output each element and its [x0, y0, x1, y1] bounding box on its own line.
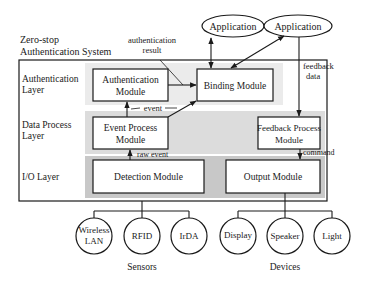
event-leader-left — [131, 108, 140, 109]
system-title-line1: Zero-stop — [20, 34, 59, 45]
application-ellipse-1: Application — [202, 15, 264, 37]
svg-text:Binding Module: Binding Module — [204, 81, 267, 91]
sensor-rfid: RFID — [124, 218, 160, 254]
device-light: Light — [314, 218, 350, 254]
devices-group-label: Devices — [270, 262, 301, 272]
layer-label-data-2: Layer — [22, 131, 45, 141]
sensor-wireless-lan: Wireless LAN — [76, 218, 112, 254]
label-feedback-2: data — [306, 71, 320, 81]
detection-module: Detection Module — [93, 160, 204, 193]
svg-text:Speaker: Speaker — [271, 231, 300, 241]
event-process-module: Event Process Module — [93, 117, 168, 149]
label-auth-result-2: result — [143, 45, 163, 55]
svg-text:Wireless: Wireless — [78, 225, 110, 235]
label-auth-result-1: authentication — [128, 35, 177, 45]
svg-text:Light: Light — [322, 231, 342, 241]
authentication-module: Authentication Module — [93, 69, 168, 101]
layer-label-auth-2: Layer — [22, 85, 45, 95]
label-event: event — [144, 103, 163, 113]
svg-text:Application: Application — [274, 21, 321, 32]
svg-text:Application: Application — [209, 21, 256, 32]
svg-text:Detection Module: Detection Module — [114, 172, 183, 182]
svg-text:IrDA: IrDA — [180, 231, 199, 241]
layer-label-auth-1: Authentication — [22, 74, 79, 84]
svg-text:RFID: RFID — [132, 231, 153, 241]
output-module: Output Module — [226, 160, 320, 193]
svg-text:Display: Display — [224, 230, 252, 240]
layer-label-data-1: Data Process — [22, 120, 72, 130]
svg-text:Feedback Process: Feedback Process — [257, 123, 322, 133]
sensors-group-label: Sensors — [127, 262, 157, 272]
sensor-irda: IrDA — [171, 218, 207, 254]
label-raw-event: raw event — [137, 150, 169, 159]
svg-text:Module: Module — [275, 135, 303, 145]
device-speaker: Speaker — [267, 218, 303, 254]
binding-module: Binding Module — [197, 69, 273, 101]
application-ellipse-2: Application — [264, 15, 332, 37]
feedback-process-module: Feedback Process Module — [257, 117, 322, 149]
layer-label-io: I/O Layer — [22, 172, 60, 182]
label-feedback-1: feedback — [303, 61, 334, 71]
svg-text:Module: Module — [116, 135, 146, 145]
svg-text:Output Module: Output Module — [244, 172, 302, 182]
architecture-diagram: Zero-stop Authentication System Authenti… — [0, 0, 369, 285]
svg-text:Event Process: Event Process — [104, 123, 158, 133]
sensor-connectors — [94, 201, 189, 218]
svg-text:Authentication: Authentication — [102, 75, 159, 85]
svg-text:LAN: LAN — [85, 236, 104, 246]
label-command: command — [303, 148, 335, 157]
system-title-line2: Authentication System — [20, 46, 112, 57]
device-display: Display — [220, 218, 256, 254]
svg-text:Module: Module — [116, 87, 146, 97]
